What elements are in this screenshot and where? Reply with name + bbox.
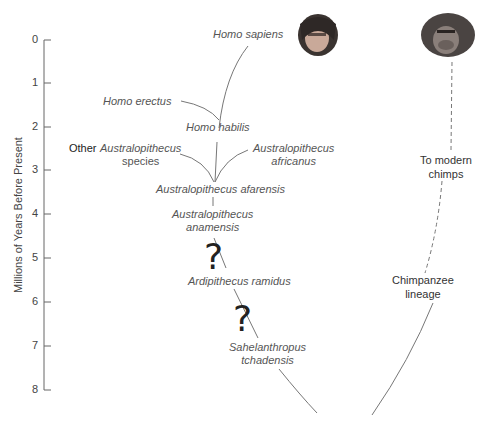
- branch-africanus: [215, 150, 248, 182]
- branch-chimpanzee-dashed-lower: [425, 181, 442, 273]
- time-axis: [44, 40, 51, 390]
- tick-label-4: 4: [24, 207, 38, 219]
- tick-label-3: 3: [24, 163, 38, 175]
- branch-homo-habilis: [215, 142, 217, 182]
- label-other-prefix: Other: [69, 142, 97, 154]
- label-sahelanthropus-line2: tchadensis: [241, 354, 294, 366]
- branch-homo-sapiens: [219, 46, 248, 128]
- branch-homo-erectus: [181, 101, 219, 120]
- tick-label-5: 5: [24, 251, 38, 263]
- tick-label-0: 0: [24, 33, 38, 45]
- label-anamensis-line1: Australopithecus: [172, 208, 253, 220]
- label-other-australopithecus-line2: species: [122, 155, 159, 167]
- y-axis-title: Millions of Years Before Present: [12, 137, 24, 293]
- tick-label-2: 2: [24, 120, 38, 132]
- label-anamensis-line2: anamensis: [186, 221, 239, 233]
- tick-label-1: 1: [24, 76, 38, 88]
- uncertainty-mark-lower: ?: [233, 298, 252, 339]
- label-chimpanzee-lineage: Chimpanzee lineage: [392, 273, 454, 301]
- label-to-modern-line1: To modern: [420, 154, 472, 166]
- label-homo-sapiens: Homo sapiens: [213, 28, 283, 40]
- label-sahelanthropus-line1: Sahelanthropus: [229, 341, 306, 353]
- label-other-australopithecus-line1: Australopithecus: [100, 142, 181, 154]
- tick-label-6: 6: [24, 295, 38, 307]
- label-australopithecus-anamensis: Australopithecus anamensis: [172, 208, 253, 234]
- homo-sapiens-head-icon: [298, 14, 338, 56]
- label-other-australopithecus: Australopithecus species: [100, 142, 181, 168]
- label-homo-habilis: Homo habilis: [186, 121, 250, 133]
- label-ardipithecus-ramidus: Ardipithecus ramidus: [188, 275, 291, 287]
- label-australopithecus-afarensis: Australopithecus afarensis: [156, 183, 285, 195]
- label-australopithecus-africanus: Australopithecus africanus: [253, 142, 334, 168]
- branch-chimpanzee-dashed: [451, 62, 452, 150]
- branch-other-australopithecus: [180, 154, 214, 182]
- label-africanus-line1: Australopithecus: [253, 142, 334, 154]
- chimpanzee-head-icon: [421, 13, 475, 57]
- tick-label-7: 7: [24, 339, 38, 351]
- branch-sahelanthropus: [279, 369, 317, 413]
- uncertainty-mark-upper: ?: [204, 236, 223, 277]
- label-sahelanthropus-tchadensis: Sahelanthropus tchadensis: [229, 341, 306, 367]
- label-chimp-lineage-line2: lineage: [405, 288, 440, 300]
- branch-chimpanzee-solid: [372, 303, 433, 415]
- label-africanus-line2: africanus: [271, 155, 316, 167]
- label-to-modern-line2: chimps: [429, 168, 464, 180]
- label-to-modern-chimps: To modern chimps: [420, 153, 472, 181]
- label-chimp-lineage-line1: Chimpanzee: [392, 274, 454, 286]
- tick-label-8: 8: [24, 383, 38, 395]
- label-homo-erectus: Homo erectus: [103, 95, 171, 107]
